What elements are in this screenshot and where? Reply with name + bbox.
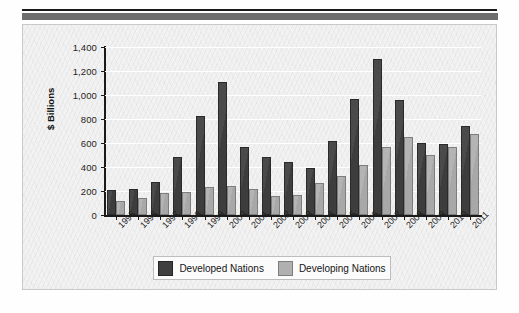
bar[interactable]	[350, 99, 359, 215]
bar-group	[282, 47, 304, 215]
chart-panel: $ Billions 1,4001,2001,0008006004002000 …	[22, 24, 497, 290]
bar[interactable]	[173, 157, 182, 215]
bar[interactable]	[293, 195, 302, 215]
bar[interactable]	[182, 192, 191, 215]
bar[interactable]	[306, 168, 315, 215]
bar[interactable]	[240, 147, 249, 215]
y-tick-label: 1,000	[73, 90, 97, 101]
x-tick-mark	[404, 215, 405, 220]
bar[interactable]	[470, 134, 479, 215]
y-tick-label: 1,200	[73, 66, 97, 77]
x-tick-mark	[315, 215, 316, 220]
bar-group	[393, 47, 415, 215]
bar[interactable]	[315, 183, 324, 215]
bar[interactable]	[426, 155, 435, 215]
bar-group	[105, 47, 127, 215]
bar-group	[238, 47, 260, 215]
x-tick-mark	[448, 215, 449, 220]
y-tick-mark	[101, 215, 105, 216]
bar[interactable]	[359, 165, 368, 215]
bar-group	[304, 47, 326, 215]
bar[interactable]	[262, 157, 271, 215]
legend-label-developing: Developing Nations	[299, 263, 386, 274]
x-tick-mark	[227, 215, 228, 220]
bar[interactable]	[417, 143, 426, 215]
bar-group	[326, 47, 348, 215]
bar[interactable]	[373, 59, 382, 215]
y-axis-title: $ Billions	[45, 88, 56, 130]
x-label-cell: 2011	[459, 217, 481, 263]
legend-item-developing[interactable]: Developing Nations	[278, 261, 386, 276]
y-tick-label: 200	[81, 186, 97, 197]
bar[interactable]	[227, 186, 236, 215]
bar-group	[216, 47, 238, 215]
bar[interactable]	[439, 144, 448, 215]
x-label-cell: 1996	[127, 217, 149, 263]
bar[interactable]	[249, 189, 258, 215]
bar[interactable]	[382, 147, 391, 215]
x-tick-mark	[382, 215, 383, 220]
x-label-cell: 1995	[105, 217, 127, 263]
bar[interactable]	[160, 193, 169, 215]
bar[interactable]	[271, 196, 280, 215]
y-tick-label: 400	[81, 162, 97, 173]
bar-group	[348, 47, 370, 215]
y-tick-label: 0	[92, 210, 97, 221]
plot-area: 1,4001,2001,0008006004002000	[105, 47, 481, 215]
x-tick-mark	[426, 215, 427, 220]
bar[interactable]	[461, 126, 470, 215]
legend-item-developed[interactable]: Developed Nations	[158, 261, 264, 276]
x-tick-mark	[182, 215, 183, 220]
bar[interactable]	[284, 162, 293, 215]
bar[interactable]	[138, 198, 147, 215]
top-rule-gray	[22, 13, 498, 20]
x-label-cell: 2010	[437, 217, 459, 263]
bar-group	[459, 47, 481, 215]
x-tick-mark	[359, 215, 360, 220]
top-rule-black	[22, 9, 497, 11]
bar[interactable]	[218, 82, 227, 215]
bar-group	[371, 47, 393, 215]
bar-group	[149, 47, 171, 215]
x-tick-mark	[138, 215, 139, 220]
bar[interactable]	[337, 176, 346, 215]
bar[interactable]	[404, 137, 413, 215]
bar-group	[171, 47, 193, 215]
y-tick-label: 600	[81, 138, 97, 149]
x-tick-mark	[205, 215, 206, 220]
x-tick-mark	[249, 215, 250, 220]
x-tick-mark	[293, 215, 294, 220]
bar-groups	[105, 47, 481, 215]
bar[interactable]	[328, 141, 337, 215]
x-label-cell: 2008	[393, 217, 415, 263]
legend-swatch-developing-icon	[278, 261, 293, 276]
x-tick-mark	[271, 215, 272, 220]
chart-legend: Developed Nations Developing Nations	[153, 256, 391, 280]
bar-group	[127, 47, 149, 215]
bar[interactable]	[107, 190, 116, 215]
bar-group	[437, 47, 459, 215]
chart-page: $ Billions 1,4001,2001,0008006004002000 …	[0, 0, 519, 313]
bar-group	[415, 47, 437, 215]
legend-label-developed: Developed Nations	[179, 263, 264, 274]
bar[interactable]	[196, 116, 205, 215]
legend-swatch-developed-icon	[158, 261, 173, 276]
bar[interactable]	[395, 100, 404, 215]
bar[interactable]	[116, 201, 125, 215]
y-tick-label: 800	[81, 114, 97, 125]
bar[interactable]	[448, 147, 457, 215]
x-tick-mark	[337, 215, 338, 220]
bar-group	[194, 47, 216, 215]
x-tick-mark	[470, 215, 471, 220]
x-tick-mark	[116, 215, 117, 220]
y-tick-label: 1,400	[73, 42, 97, 53]
bar-group	[260, 47, 282, 215]
x-tick-mark	[160, 215, 161, 220]
x-label-cell: 2009	[415, 217, 437, 263]
bar[interactable]	[205, 187, 214, 215]
